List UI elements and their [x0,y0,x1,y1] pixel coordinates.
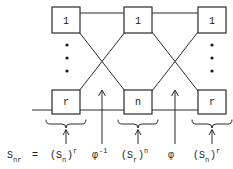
term-sr-n: ( S r ) n [121,147,148,164]
equation-lhs: S nr [7,150,21,164]
brace-middle [118,120,158,144]
node-bottom-middle-label: n [135,97,141,108]
brace-left [46,120,86,144]
node-bottom-left-label: r [63,97,69,108]
ellipsis-right [210,43,213,72]
term2-superscript: -1 [99,147,107,155]
node-top-right-label: 1 [209,16,215,27]
term2-base: φ [92,150,98,161]
node-top-middle-label: 1 [135,16,141,27]
term4-base: φ [168,150,174,161]
diagram-canvas: 1 1 1 r n r [0,0,233,169]
arrow-phi-inverse [99,90,106,144]
term3-superscript: n [144,147,148,155]
node-top-left[interactable]: 1 [52,7,80,33]
term5-subscript: n [205,156,209,164]
term5-superscript: r [216,147,220,155]
term-sn-r: ( S n ) r [50,147,77,164]
equals-sign: = [32,150,38,161]
node-top-right[interactable]: 1 [198,7,226,33]
node-bottom-right[interactable]: r [198,90,226,114]
node-bottom-middle[interactable]: n [124,90,152,114]
term1-superscript: r [73,147,77,155]
ellipsis-left [65,43,68,72]
node-bottom-left[interactable]: r [52,90,80,114]
term-sn-r-2: ( S n ) r [193,147,220,164]
term-phi: φ [168,150,174,161]
node-bottom-right-label: r [209,97,215,108]
node-top-middle[interactable]: 1 [124,7,152,33]
arrow-phi [172,90,179,144]
node-top-left-label: 1 [63,16,69,27]
figure-root: 1 1 1 r n r [0,0,233,169]
brace-right [192,120,232,144]
term3-subscript: r [133,156,137,164]
term1-subscript: n [62,156,66,164]
lhs-subscript: nr [13,156,21,164]
term-phi-inverse: φ -1 [92,147,107,161]
